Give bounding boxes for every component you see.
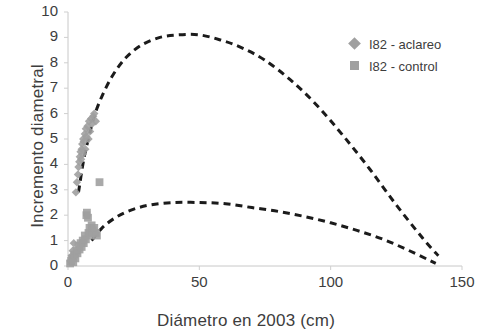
x-tick-label: 0 [48,273,88,290]
legend-label-control: I82 - control [369,59,438,74]
chart-legend: I82 - aclareo I82 - control [348,33,441,77]
series-square [66,178,103,267]
legend-label-aclareo: I82 - aclareo [369,37,441,52]
scatter-chart-figure: 012345678910 050100150 Diámetro en 2003 … [0,0,492,332]
diamond-marker-icon [348,37,362,51]
x-tick-label: 100 [311,273,351,290]
x-tick-label: 150 [442,273,482,290]
y-tick-label: 10 [24,2,58,19]
legend-item-control: I82 - control [348,55,441,77]
legend-item-aclareo: I82 - aclareo [348,33,441,55]
data-points [66,109,103,267]
x-tick-label: 50 [179,273,219,290]
y-axis-title: Incremento diametral [28,26,48,266]
x-axis-title: Diámetro en 2003 (cm) [0,311,492,331]
square-marker-icon [348,59,362,73]
